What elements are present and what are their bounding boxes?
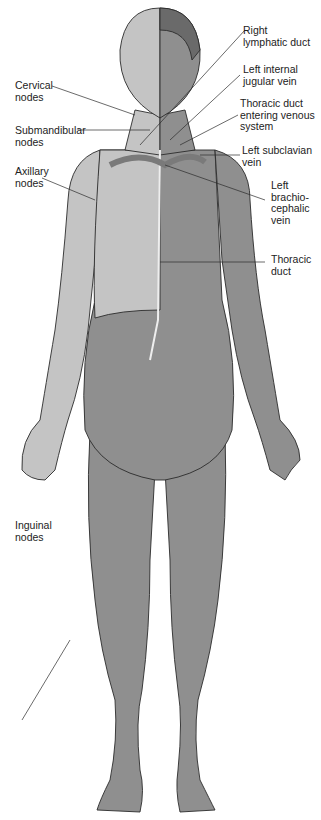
label-right-lymphatic-duct: Right lymphatic duct <box>243 25 310 48</box>
label-axillary-nodes: Axillary nodes <box>15 166 49 189</box>
neck-left <box>160 110 195 155</box>
label-thoracic-duct: Thoracic duct <box>271 254 311 277</box>
label-inguinal-nodes: Inguinal nodes <box>15 520 52 543</box>
head-right <box>120 8 160 118</box>
left-leg <box>165 430 226 812</box>
label-submandibular-nodes: Submandibular nodes <box>15 125 86 148</box>
label-left-internal-jugular-vein: Left internal jugular vein <box>243 64 298 87</box>
right-leg <box>88 430 155 812</box>
neck-right <box>125 110 160 155</box>
label-thoracic-duct-entering: Thoracic duct entering venous system <box>240 98 315 133</box>
right-upper-body <box>94 150 160 318</box>
label-cervical-nodes: Cervical nodes <box>15 80 53 103</box>
label-left-subclavian-vein: Left subclavian vein <box>242 145 312 168</box>
label-left-brachiocephalic-vein: Left brachio- cephalic vein <box>271 180 310 226</box>
